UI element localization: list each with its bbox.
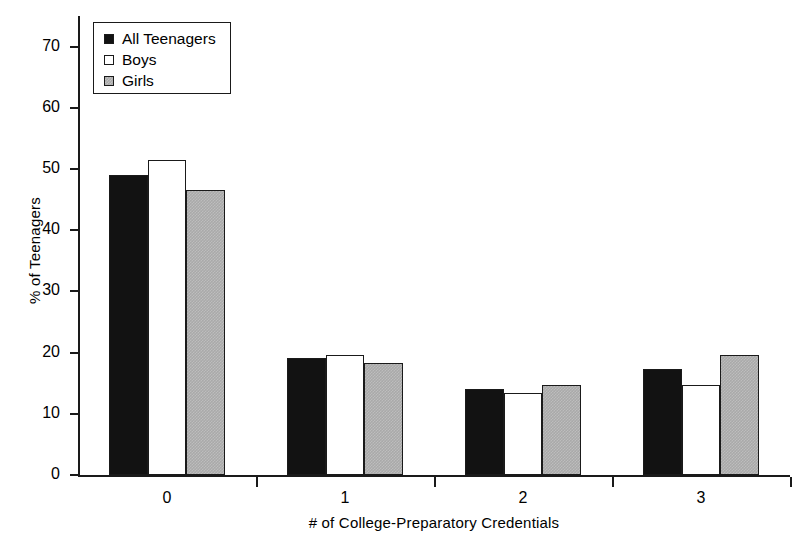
y-axis-tick	[70, 168, 80, 170]
x-axis-tick	[434, 477, 436, 487]
x-axis-tick	[790, 477, 792, 487]
bar	[542, 385, 581, 475]
legend-item: All Teenagers	[104, 29, 230, 49]
black-square-icon	[104, 34, 114, 44]
y-axis-tick	[70, 413, 80, 415]
y-axis-tick-label: 10	[0, 405, 60, 421]
y-axis-line	[78, 16, 80, 476]
y-axis-tick	[70, 46, 80, 48]
x-axis-tick-label: 1	[315, 490, 375, 506]
y-axis-tick	[70, 290, 80, 292]
x-axis-title: # of College-Preparatory Credentials	[78, 514, 790, 531]
bar	[364, 363, 403, 475]
x-axis-tick-label: 0	[137, 490, 197, 506]
y-axis-tick-label: 20	[0, 344, 60, 360]
bar-chart: % of Teenagers 010203040506070 0123 # of…	[0, 0, 805, 547]
legend-item: Girls	[104, 71, 230, 91]
legend-item-label: Girls	[122, 73, 154, 89]
x-axis-tick	[256, 477, 258, 487]
x-axis-tick	[612, 477, 614, 487]
y-axis-tick-label: 40	[0, 221, 60, 237]
legend-item-label: All Teenagers	[122, 31, 216, 47]
bar	[465, 389, 504, 475]
bar	[109, 175, 148, 475]
bar	[186, 190, 225, 475]
y-axis-tick	[70, 107, 80, 109]
gray-square-icon	[104, 76, 114, 86]
y-axis-tick-label: 0	[0, 466, 60, 482]
y-axis-tick-label: 50	[0, 160, 60, 176]
x-axis-tick-label: 2	[493, 490, 553, 506]
white-square-icon	[104, 55, 114, 65]
y-axis-tick-label: 30	[0, 282, 60, 298]
y-axis-tick	[70, 229, 80, 231]
y-axis-tick	[70, 474, 80, 476]
bar	[504, 393, 543, 475]
bar	[287, 358, 326, 475]
bar	[682, 385, 721, 475]
x-axis-tick-label: 3	[671, 490, 731, 506]
y-axis-tick	[70, 352, 80, 354]
legend-item: Boys	[104, 50, 230, 70]
legend: All Teenagers Boys Girls	[93, 22, 231, 94]
bar	[148, 160, 187, 475]
bar	[643, 369, 682, 475]
y-axis-tick-label: 70	[0, 38, 60, 54]
bar	[326, 355, 365, 475]
bar	[720, 355, 759, 475]
legend-item-label: Boys	[122, 52, 156, 68]
y-axis-tick-label: 60	[0, 99, 60, 115]
